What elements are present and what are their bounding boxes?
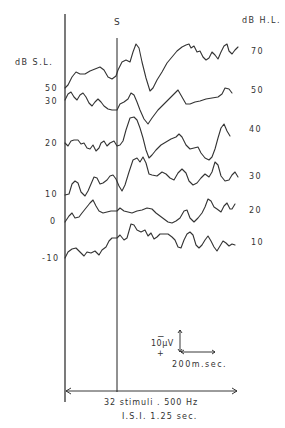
sl-label-minus10: -10 xyxy=(42,254,60,263)
hl-label-70: 70 xyxy=(251,47,264,56)
waveform-20-hl xyxy=(65,199,235,223)
footer-stimuli-label: 32 stimuli . 500 Hz xyxy=(104,398,198,407)
scale-time-label: 200m.sec. xyxy=(172,360,227,369)
sl-label-20: 20 xyxy=(45,139,58,148)
scale-plus-sign: + xyxy=(157,349,165,358)
waveform-10-hl xyxy=(65,224,235,258)
hl-label-10: 10 xyxy=(251,238,264,247)
sl-label-10: 10 xyxy=(45,190,58,199)
hl-label-50: 50 xyxy=(251,86,264,95)
hl-label-20: 20 xyxy=(249,206,262,215)
waveform-30-hl xyxy=(65,157,238,196)
waveform-50-hl xyxy=(65,88,232,124)
waveform-70-hl xyxy=(65,44,238,91)
footer-isi-label: I.S.I. 1.25 sec. xyxy=(122,412,198,421)
stimulus-marker-label: S xyxy=(114,17,121,27)
hl-label-30: 30 xyxy=(249,172,262,181)
sl-label-0: 0 xyxy=(50,217,57,226)
left-axis-title: dB S.L. xyxy=(15,58,53,67)
sl-label-30: 30 xyxy=(45,97,58,106)
hl-label-40: 40 xyxy=(249,125,262,134)
sl-label-50: 50 xyxy=(45,84,58,93)
right-axis-title: dB H.L. xyxy=(242,16,281,25)
scale-amplitude-label: 10µV xyxy=(151,339,174,348)
